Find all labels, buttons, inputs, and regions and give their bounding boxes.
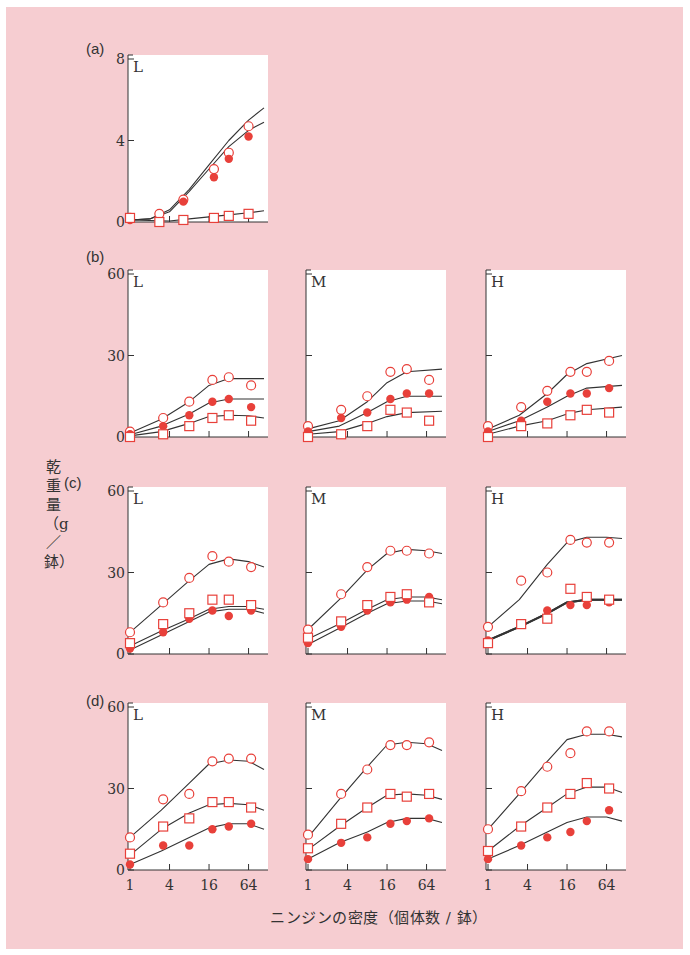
filled-circle-marker xyxy=(210,173,218,181)
open-square-marker xyxy=(126,433,135,442)
panel-row-label: (d) xyxy=(86,692,104,709)
chart-panel-d-L: 03060141664L xyxy=(107,699,268,893)
y-tick-label: 0 xyxy=(116,214,125,230)
filled-circle-marker xyxy=(543,606,551,614)
open-square-marker xyxy=(304,844,313,853)
filled-circle-marker xyxy=(583,601,591,609)
open-square-marker xyxy=(543,803,552,812)
level-label: L xyxy=(133,58,143,76)
open-square-marker xyxy=(582,405,591,414)
open-square-marker xyxy=(155,218,164,227)
open-circle-marker xyxy=(386,741,395,750)
filled-circle-marker xyxy=(403,389,411,397)
chart-panel-d-H: 141664H xyxy=(484,703,627,893)
panel-row-label: (b) xyxy=(86,248,104,265)
filled-circle-marker xyxy=(566,601,574,609)
open-circle-marker xyxy=(517,787,526,796)
level-label: H xyxy=(491,706,504,724)
open-square-marker xyxy=(566,789,575,798)
open-circle-marker xyxy=(386,546,395,555)
filled-circle-marker xyxy=(208,397,216,405)
y-axis-title: 乾重量（g／鉢） xyxy=(44,458,62,572)
open-circle-marker xyxy=(208,757,217,766)
open-circle-marker xyxy=(605,538,614,547)
open-square-marker xyxy=(402,408,411,417)
y-tick-label: 60 xyxy=(107,266,125,282)
open-square-marker xyxy=(582,592,591,601)
open-circle-marker xyxy=(159,413,168,422)
y-tick-label: 30 xyxy=(107,348,125,364)
filled-circle-marker xyxy=(304,855,312,863)
y-tick-label: 0 xyxy=(116,429,125,445)
open-circle-marker xyxy=(185,789,194,798)
plot-area xyxy=(306,703,446,870)
open-circle-marker xyxy=(425,549,434,558)
open-square-marker xyxy=(582,779,591,788)
chart-panel-a-L: 048L xyxy=(116,51,268,230)
plot-area xyxy=(306,487,446,654)
level-label: M xyxy=(311,490,326,508)
filled-circle-marker xyxy=(337,839,345,847)
level-label: H xyxy=(491,490,504,508)
x-tick-label: 4 xyxy=(165,877,174,893)
open-circle-marker xyxy=(224,754,233,763)
open-circle-marker xyxy=(224,373,233,382)
open-circle-marker xyxy=(517,576,526,585)
open-square-marker xyxy=(605,595,614,604)
y-tick-label: 30 xyxy=(107,565,125,581)
open-circle-marker xyxy=(159,598,168,607)
x-tick-label: 4 xyxy=(343,877,352,893)
panel-row-label: (c) xyxy=(64,474,82,491)
filled-circle-marker xyxy=(244,132,252,140)
x-tick-label: 64 xyxy=(418,877,436,893)
open-circle-marker xyxy=(209,165,218,174)
y-tick-label: 60 xyxy=(107,699,125,715)
open-circle-marker xyxy=(402,546,411,555)
open-square-marker xyxy=(517,620,526,629)
chart-panel-b-L: 03060L xyxy=(107,266,268,445)
open-square-marker xyxy=(244,209,253,218)
chart-panel-b-H: H xyxy=(484,270,627,442)
chart-panel-c-L: 03060L xyxy=(107,483,268,662)
open-square-marker xyxy=(185,814,194,823)
filled-circle-marker xyxy=(386,820,394,828)
filled-circle-marker xyxy=(425,389,433,397)
filled-circle-marker xyxy=(543,833,551,841)
y-tick-label: 0 xyxy=(116,646,125,662)
open-square-marker xyxy=(185,609,194,618)
filled-circle-marker xyxy=(566,389,574,397)
y-tick-label: 0 xyxy=(116,862,125,878)
open-circle-marker xyxy=(247,563,256,572)
x-tick-label: 64 xyxy=(598,877,616,893)
open-square-marker xyxy=(363,601,372,610)
chart-panel-c-M: M xyxy=(304,487,447,654)
filled-circle-marker xyxy=(159,628,167,636)
open-square-marker xyxy=(179,215,188,224)
filled-circle-marker xyxy=(605,806,613,814)
open-square-marker xyxy=(126,639,135,648)
filled-circle-marker xyxy=(179,197,187,205)
open-circle-marker xyxy=(363,563,372,572)
open-square-marker xyxy=(185,422,194,431)
open-circle-marker xyxy=(484,622,493,631)
open-circle-marker xyxy=(543,762,552,771)
open-square-marker xyxy=(159,620,168,629)
x-tick-label: 1 xyxy=(484,877,493,893)
open-square-marker xyxy=(363,422,372,431)
open-square-marker xyxy=(224,798,233,807)
open-square-marker xyxy=(517,822,526,831)
x-tick-label: 1 xyxy=(126,877,135,893)
open-square-marker xyxy=(247,601,256,610)
filled-circle-marker xyxy=(583,389,591,397)
open-circle-marker xyxy=(566,535,575,544)
open-square-marker xyxy=(386,405,395,414)
panel-row-label: (a) xyxy=(86,40,104,57)
open-square-marker xyxy=(337,430,346,439)
open-square-marker xyxy=(425,789,434,798)
open-circle-marker xyxy=(582,727,591,736)
open-square-marker xyxy=(159,822,168,831)
open-square-marker xyxy=(209,213,218,222)
open-circle-marker xyxy=(304,830,313,839)
filled-circle-marker xyxy=(337,414,345,422)
filled-circle-marker xyxy=(185,841,193,849)
